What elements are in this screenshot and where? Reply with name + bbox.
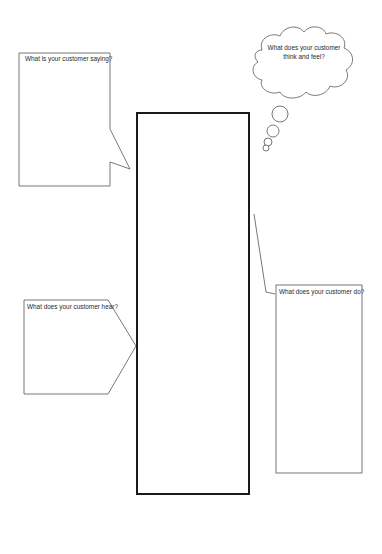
hear-pentagon-arrow[interactable] (24, 300, 136, 394)
saying-prompt: What is your customer saying? (25, 55, 112, 64)
hear-prompt: What does your customer hear? (27, 303, 118, 312)
saying-speech-bubble[interactable] (19, 53, 130, 186)
think-feel-prompt-line2: think and feel? (264, 53, 344, 62)
empathy-map-canvas (0, 0, 382, 554)
do-callout-leader-line (254, 214, 275, 294)
think-feel-prompt: What does your customer think and feel? (264, 44, 344, 61)
center-customer-box[interactable] (137, 113, 249, 494)
do-prompt: What does your customer do? (279, 288, 364, 297)
do-callout-box[interactable] (276, 285, 362, 473)
think-feel-prompt-line1: What does your customer (264, 44, 344, 53)
